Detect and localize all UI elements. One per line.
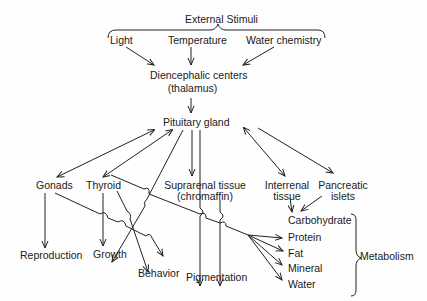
metabolism-label: Metabolism bbox=[360, 251, 414, 262]
thalamus: (thalamus) bbox=[150, 83, 235, 94]
interrenal-tissue-l2: tissue bbox=[262, 191, 312, 202]
growth: Growth bbox=[93, 249, 127, 260]
stimulus-temperature: Temperature bbox=[168, 35, 227, 46]
pancreatic-islets-l2: islets bbox=[318, 191, 368, 202]
metabolism-carbohydrate: Carbohydrate bbox=[288, 215, 352, 226]
endocrine-diagram: External Stimuli Light Temperature Water… bbox=[0, 0, 427, 301]
pituitary-gland: Pituitary gland bbox=[163, 117, 230, 128]
reproduction: Reproduction bbox=[20, 250, 82, 261]
pigmentation: Pigmentation bbox=[186, 272, 247, 283]
metabolism-mineral: Mineral bbox=[288, 263, 322, 274]
metabolism-protein: Protein bbox=[288, 232, 321, 243]
diencephalic-centers: Diencephalic centers bbox=[150, 70, 235, 81]
stimulus-water-chemistry: Water chemistry bbox=[246, 35, 321, 46]
external-stimuli-title: External Stimuli bbox=[185, 14, 258, 25]
gonads: Gonads bbox=[36, 180, 73, 191]
metabolism-water: Water bbox=[288, 279, 316, 290]
behavior: Behavior bbox=[138, 268, 179, 279]
stimulus-light: Light bbox=[110, 35, 133, 46]
thyroid: Thyroid bbox=[86, 180, 121, 191]
chromaffin: (chromaffin) bbox=[160, 191, 250, 202]
metabolism-fat: Fat bbox=[288, 248, 303, 259]
